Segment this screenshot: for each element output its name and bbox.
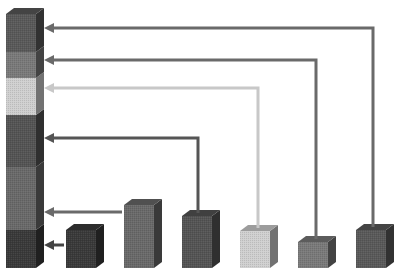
arrow-head-icon: [44, 133, 54, 143]
component-bar-b2: [124, 199, 162, 268]
component-bar-b1: [66, 224, 104, 268]
arrow-b6: [44, 23, 373, 227]
arrow-b2: [44, 207, 122, 217]
arrow-head-icon: [44, 55, 54, 65]
component-bars: [66, 199, 394, 268]
total-bar-segment-s6: [6, 8, 44, 52]
total-bar-segment-s2: [6, 161, 44, 230]
component-bar-b3: [182, 210, 220, 268]
decomposition-diagram: [0, 0, 396, 276]
arrow-b3: [44, 133, 198, 213]
total-bar-segment-s1: [6, 224, 44, 268]
arrow-b1: [44, 240, 64, 250]
component-bar-b5: [298, 236, 336, 268]
component-bar-b4: [240, 225, 278, 268]
arrow-head-icon: [44, 83, 54, 93]
component-bar-b6: [356, 224, 394, 268]
total-bar-segment-s4: [6, 72, 44, 115]
arrow-head-icon: [44, 240, 54, 250]
arrow-head-icon: [44, 23, 54, 33]
total-bar-segment-s3: [6, 109, 44, 167]
arrow-head-icon: [44, 207, 54, 217]
total-stacked-bar: [6, 8, 44, 268]
